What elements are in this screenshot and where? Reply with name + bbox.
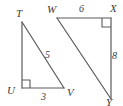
- segment-WY: [57, 18, 111, 99]
- vertex-label-V: V: [67, 87, 74, 98]
- right-angle-mark-X: [102, 18, 111, 27]
- vertex-label-Y: Y: [106, 97, 112, 106]
- measure-label-UV: 3: [41, 92, 46, 102]
- triangle-WXY: [57, 18, 111, 99]
- measure-label-XY: 8: [112, 51, 117, 61]
- vertex-label-X: X: [110, 3, 117, 14]
- measure-label-TV: 5: [45, 50, 50, 60]
- measure-label-WX: 6: [79, 4, 84, 14]
- triangle-TUV: [22, 22, 64, 88]
- vertex-label-U: U: [7, 85, 15, 96]
- vertex-label-W: W: [47, 4, 56, 15]
- segment-TV: [22, 22, 64, 88]
- geometry-figure: T U V W X Y 5 3 6 8: [0, 0, 123, 106]
- vertex-label-T: T: [16, 8, 22, 19]
- right-angle-mark-U: [22, 80, 30, 88]
